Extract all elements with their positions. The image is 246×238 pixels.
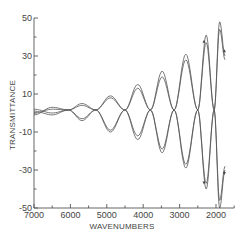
x-axis-label: WAVENUMBERS [90, 222, 155, 231]
traces [34, 22, 226, 208]
x-tick-label: 6000 [60, 210, 80, 220]
y-axis-label: TRANSMITTANCE [8, 80, 17, 150]
x-tick-label: 3000 [170, 210, 190, 220]
y-tick-label: -10 [19, 127, 32, 137]
x-tick-label: 5000 [97, 210, 117, 220]
trace-line-1 [34, 22, 225, 189]
chart: 503010-10-30-50700060005000400030002000 … [0, 0, 246, 238]
x-tick-label: 7000 [24, 210, 44, 220]
y-tick-label: 30 [22, 51, 32, 61]
trace-line-3 [34, 35, 225, 208]
y-tick-label: -30 [19, 165, 32, 175]
y-tick-label: 50 [22, 13, 32, 23]
x-tick-label: 2000 [206, 210, 226, 220]
trace-line-2 [34, 29, 225, 183]
trace-line-4 [34, 43, 225, 201]
x-tick-label: 4000 [133, 210, 153, 220]
axes: 503010-10-30-50700060005000400030002000 [19, 13, 234, 220]
y-tick-label: 10 [22, 89, 32, 99]
